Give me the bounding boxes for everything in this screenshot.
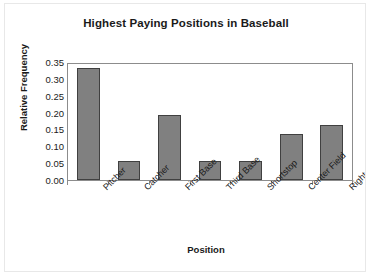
y-tick-label: 0.30 <box>31 75 64 85</box>
x-axis-category-labels: PitcherCatcherFirst BaseThird BaseShorts… <box>67 185 353 243</box>
y-tick-label: 0.25 <box>31 92 64 102</box>
x-category-label: Pitcher <box>101 185 108 192</box>
x-axis-title: Position <box>51 244 361 255</box>
y-tick-label: 0.05 <box>31 159 64 169</box>
x-category-label: First Base <box>183 185 190 192</box>
y-tick-label: 0.35 <box>31 58 64 68</box>
y-tick-label: 0.20 <box>31 109 64 119</box>
bar-slot <box>109 64 150 180</box>
y-tick-label: 0.15 <box>31 125 64 135</box>
x-category-label: Catcher <box>142 185 149 192</box>
y-axis-title: Relative Frequency <box>18 34 29 142</box>
x-category-label: Third Base <box>224 185 231 192</box>
y-axis-tick-labels: 0.350.300.250.200.150.100.050.00 <box>31 63 64 181</box>
x-category-label: Center Field <box>306 185 313 192</box>
x-category-label: Shortstop <box>265 185 272 192</box>
y-tick-label: 0.10 <box>31 142 64 152</box>
chart-title: Highest Paying Positions in Baseball <box>5 17 366 29</box>
bar-slot <box>68 64 109 180</box>
y-tick-label: 0.00 <box>31 176 64 186</box>
x-category-label: Right Field <box>347 185 354 192</box>
bar-slot <box>149 64 190 180</box>
chart-frame: Highest Paying Positions in Baseball Rel… <box>4 3 366 272</box>
bar <box>77 68 100 180</box>
